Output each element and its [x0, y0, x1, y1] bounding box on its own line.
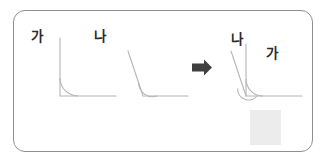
gray-square: [250, 110, 281, 145]
label-angle-na-overlay: 나: [231, 33, 243, 47]
label-angle-ga-first: 가: [31, 30, 43, 44]
label-angle-ga-overlay: 가: [266, 47, 278, 61]
label-angle-na-first: 나: [94, 30, 106, 44]
screenshot-root: 가 나 나 가: [0, 0, 328, 166]
